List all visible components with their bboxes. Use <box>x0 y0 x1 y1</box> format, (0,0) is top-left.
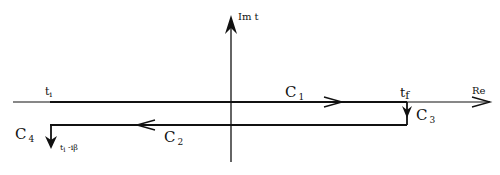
contour-c1 <box>50 97 407 107</box>
point-suffix: -iβ <box>65 143 77 152</box>
label-c3: C3 <box>416 108 436 123</box>
contour-c2 <box>50 120 407 130</box>
segment-letter: C <box>15 125 27 143</box>
segment-letter: C <box>416 106 428 124</box>
real-axis-label: Re <box>472 86 485 96</box>
label-c4: C4 <box>15 127 35 142</box>
point-t-initial-shifted: ti -iβ <box>60 144 78 152</box>
segment-sub: 1 <box>298 92 305 102</box>
contour-c3 <box>402 102 412 125</box>
segment-sub: 2 <box>177 137 184 147</box>
imaginary-axis-label: Im t <box>238 12 259 22</box>
label-c2: C2 <box>164 130 184 145</box>
label-c1: C1 <box>285 85 305 100</box>
point-t-initial: ti <box>45 86 52 97</box>
point-sub: f <box>405 89 409 102</box>
segment-sub: 4 <box>28 134 35 144</box>
segment-letter: C <box>164 128 176 146</box>
segment-letter: C <box>285 83 297 101</box>
contour-c4 <box>45 125 57 149</box>
segment-sub: 3 <box>429 115 436 125</box>
imaginary-axis <box>225 15 237 162</box>
point-t-final: tf <box>400 86 409 99</box>
point-sub: i <box>49 90 52 99</box>
